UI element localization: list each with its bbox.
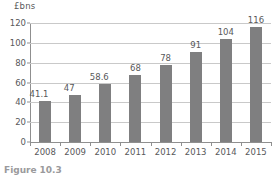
bar-chart-figure: £bns 020406080100120 41.14758.6687891104… [0, 0, 276, 175]
y-tick-mark [27, 42, 30, 43]
bar[interactable] [190, 52, 202, 142]
x-tick-mark [120, 142, 121, 146]
y-tick-mark [27, 82, 30, 83]
bar-value-label: 91 [190, 41, 201, 50]
figure-caption: Figure 10.3 [4, 165, 272, 175]
x-tick-mark [151, 142, 152, 146]
x-tick-label: 2015 [245, 148, 267, 157]
bar-value-label: 104 [218, 28, 234, 37]
x-tick-mark [181, 142, 182, 146]
x-tick-label: 2009 [64, 148, 86, 157]
y-tick-label: 0 [21, 138, 26, 147]
y-tick-label: 100 [10, 39, 26, 48]
x-tick-mark [241, 142, 242, 146]
bar[interactable] [250, 27, 262, 142]
bar[interactable] [129, 75, 141, 142]
bar-value-label: 68 [130, 64, 141, 73]
x-tick-label: 2011 [125, 148, 147, 157]
bar[interactable] [99, 84, 111, 142]
bar-value-label: 116 [248, 16, 264, 25]
y-tick-mark [27, 102, 30, 103]
y-tick-label: 80 [15, 58, 26, 67]
x-tick-label: 2010 [94, 148, 116, 157]
x-tick-mark [60, 142, 61, 146]
y-tick-label: 20 [15, 118, 26, 127]
bar[interactable] [69, 95, 81, 142]
gridline [30, 63, 271, 64]
y-tick-mark [27, 23, 30, 24]
y-tick-label: 60 [15, 78, 26, 87]
gridline [30, 23, 271, 24]
y-axis-unit-label: £bns [14, 1, 35, 11]
x-tick-label: 2008 [34, 148, 56, 157]
bar-value-label: 41.1 [30, 90, 49, 99]
y-tick-label: 40 [15, 98, 26, 107]
y-tick-label: 120 [10, 19, 26, 28]
bar[interactable] [220, 39, 232, 142]
x-tick-mark [30, 142, 31, 146]
x-tick-label: 2013 [185, 148, 207, 157]
bar-value-label: 47 [64, 84, 75, 93]
gridline [30, 122, 271, 123]
bar-value-label: 78 [160, 54, 171, 63]
x-tick-label: 2014 [215, 148, 237, 157]
y-tick-mark [27, 122, 30, 123]
figure-caption-label: Figure [4, 165, 37, 175]
bar[interactable] [39, 101, 51, 142]
x-tick-mark [90, 142, 91, 146]
x-tick-mark [271, 142, 272, 146]
figure-caption-number: 10.3 [40, 165, 62, 175]
x-tick-mark [211, 142, 212, 146]
y-tick-mark [27, 62, 30, 63]
bar-value-label: 58.6 [90, 73, 109, 82]
bar[interactable] [160, 65, 172, 142]
x-tick-label: 2012 [155, 148, 177, 157]
gridline [30, 43, 271, 44]
gridline [30, 102, 271, 103]
